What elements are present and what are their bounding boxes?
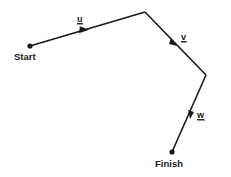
vector-v-line [145, 12, 206, 75]
finish-label: Finish [155, 158, 183, 169]
vector-diagram: Start Finish u v w [0, 0, 231, 177]
start-point [27, 43, 32, 48]
vector-w-label: w [196, 110, 205, 120]
vector-u-line [30, 12, 145, 46]
vector-u-arrow-icon [79, 26, 89, 33]
finish-point [169, 149, 174, 154]
vector-v-label: v [181, 32, 186, 42]
vector-v-arrow-icon [169, 38, 177, 46]
start-label: Start [14, 51, 36, 62]
vector-u-label: u [77, 14, 83, 24]
